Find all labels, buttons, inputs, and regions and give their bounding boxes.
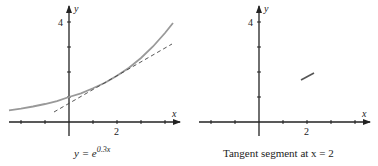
right-caption: Tangent segment at x = 2	[223, 147, 334, 159]
x-axis-label: x	[171, 108, 177, 119]
left-caption: y = e0.3x	[73, 145, 111, 159]
x-tick-label-2: 2	[304, 126, 309, 137]
x-axis-label: x	[361, 108, 367, 119]
tangent-segment	[301, 73, 314, 80]
y-tick-label-4: 4	[58, 17, 63, 28]
exponential-curve	[9, 23, 173, 110]
left-plot: y x 4 2 y = e0.3x	[9, 3, 180, 159]
y-tick-label-4: 4	[248, 17, 253, 28]
right-plot: y x 4 2 Tangent segment at x = 2	[199, 3, 370, 159]
x-tick-label-2: 2	[114, 126, 119, 137]
y-axis-label: y	[263, 3, 269, 14]
figure: y x 4 2 y = e0.3x y x 4 2 Tangent segmen…	[0, 0, 378, 166]
y-axis-label: y	[73, 3, 79, 14]
